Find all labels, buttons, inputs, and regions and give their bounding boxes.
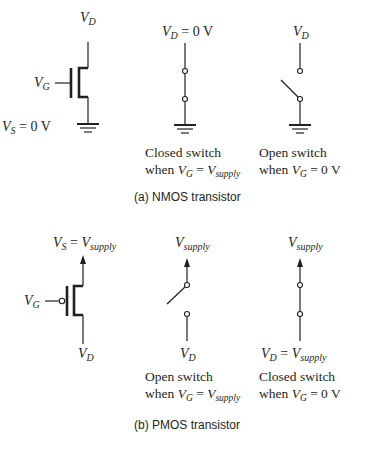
ground-icon (174, 125, 196, 133)
open-switch-lever (167, 287, 185, 304)
nmos-drain-label: VD (80, 10, 97, 27)
nmos-channel (79, 68, 88, 97)
pmos-gate-bubble (59, 298, 64, 303)
ground-icon (289, 125, 311, 133)
pmos-gate-label: VG (24, 293, 40, 310)
nmos-figure-caption: (a) NMOS transistor (134, 190, 241, 204)
switch-terminal-top (298, 283, 303, 288)
pmos-drain-label: VD (78, 346, 95, 363)
open-switch-lever (281, 80, 298, 97)
pmos-transistor-symbol: VS = Vsupply VG VD (24, 235, 117, 363)
pmos-closed-switch-caption-1: Closed switch (259, 369, 335, 384)
switch-terminal-bottom (183, 97, 188, 102)
switch-terminal-bottom (298, 312, 303, 317)
ground-icon (77, 124, 99, 132)
nmos-open-switch-caption-2: when VG = 0 V (259, 162, 341, 179)
pmos-figure-caption: (b) PMOS transistor (134, 418, 240, 432)
pmos-closed-switch-top-label: Vsupply (288, 235, 323, 252)
nmos-closed-switch-top-label: VD = 0 V (162, 24, 213, 41)
nmos-transistor-symbol: VD VG VS = 0 V (2, 10, 99, 136)
pmos-open-switch-caption-2: when VG = Vsupply (145, 386, 241, 403)
pmos-closed-switch-caption-2: when VG = 0 V (259, 386, 341, 403)
pmos-closed-switch-bottom-label: VD = Vsupply (261, 346, 327, 363)
transistor-switch-diagram: VD VG VS = 0 V VD = 0 V Closed switch wh… (0, 0, 380, 451)
switch-terminal-bottom (298, 97, 303, 102)
nmos-closed-switch-caption-2: when VG = Vsupply (145, 162, 241, 179)
switch-terminal-top (185, 283, 190, 288)
pmos-open-switch-bottom-label: VD (180, 346, 197, 363)
nmos-source-label: VS = 0 V (2, 119, 51, 136)
pmos-open-switch-caption-1: Open switch (145, 369, 213, 384)
nmos-closed-switch-caption-1: Closed switch (145, 145, 221, 160)
nmos-open-switch-caption-1: Open switch (259, 145, 327, 160)
switch-terminal-top (183, 69, 188, 74)
nmos-open-switch: VD Open switch when VG = 0 V (259, 24, 341, 179)
nmos-closed-switch: VD = 0 V Closed switch when VG = Vsupply (145, 24, 241, 179)
switch-terminal-top (298, 69, 303, 74)
pmos-open-switch-top-label: Vsupply (175, 235, 210, 252)
nmos-gate-label: VG (34, 75, 50, 92)
pmos-channel (74, 286, 83, 315)
nmos-open-switch-top-label: VD (293, 24, 310, 41)
pmos-source-label: VS = Vsupply (53, 235, 117, 252)
switch-terminal-bottom (185, 312, 190, 317)
pmos-open-switch: Vsupply VD Open switch when VG = Vsupply (145, 235, 241, 403)
pmos-closed-switch: Vsupply VD = Vsupply Closed switch when … (259, 235, 341, 403)
